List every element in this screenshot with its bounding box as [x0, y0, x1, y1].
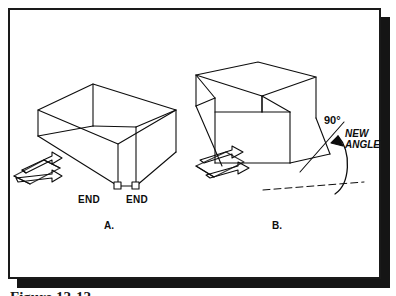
- end-label-left: END: [78, 194, 100, 205]
- panel-b-box: [196, 62, 330, 166]
- end-marker-square: [114, 182, 121, 189]
- figure-root: END END A. B. 90° NEW ANGLE Figure 12-12: [0, 0, 396, 296]
- new-angle-line-1: NEW: [345, 128, 380, 139]
- new-angle-line-2: ANGLE: [345, 139, 380, 150]
- figure-caption: Figure 12-12: [10, 289, 210, 296]
- reference-baseline: [263, 182, 364, 190]
- angle-value-label: 90°: [324, 114, 341, 126]
- panel-a-box: [38, 84, 176, 186]
- panel-b-direction-arrows: [196, 146, 249, 178]
- end-label-right: END: [126, 194, 148, 205]
- panel-a-label: A.: [104, 220, 114, 231]
- panel-b-label: B.: [272, 220, 282, 231]
- new-angle-label: NEW ANGLE: [345, 128, 380, 150]
- illustration-artwork: [0, 0, 396, 296]
- panel-a-direction-arrows: [14, 152, 62, 184]
- end-marker-square: [132, 182, 139, 189]
- angle-leader-line: [300, 122, 344, 172]
